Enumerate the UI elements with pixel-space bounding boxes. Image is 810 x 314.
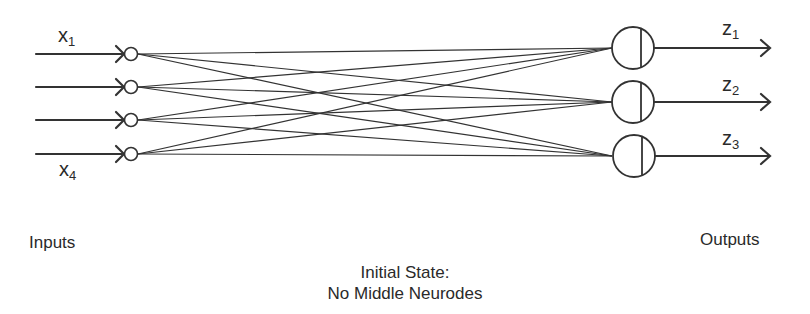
connection-lines	[138, 48, 612, 156]
input-arrow-1	[36, 46, 124, 62]
outputs-label: Outputs	[700, 230, 760, 250]
input-node-3	[125, 114, 138, 127]
var-base: x	[59, 158, 69, 180]
var-sub: 1	[732, 27, 739, 42]
input-node-1	[125, 48, 138, 61]
output-arrow-1	[654, 40, 770, 56]
var-base: z	[722, 17, 732, 39]
output-label-z1: z1	[722, 17, 739, 42]
output-node-3	[613, 135, 655, 177]
input-node-2	[125, 81, 138, 94]
input-arrow-2	[36, 79, 124, 95]
diagram-caption: Initial State: No Middle Neurodes	[0, 262, 810, 304]
var-sub: 4	[69, 168, 76, 183]
var-base: z	[722, 127, 732, 149]
output-node-1	[612, 27, 654, 69]
caption-line-1: Initial State:	[0, 262, 810, 283]
input-nodes	[125, 48, 138, 161]
caption-line-2: No Middle Neurodes	[0, 283, 810, 304]
input-node-4	[125, 148, 138, 161]
var-sub: 2	[732, 83, 739, 98]
input-label-x4: x4	[59, 158, 76, 183]
output-arrow-2	[654, 94, 770, 110]
output-arrow-3	[655, 148, 770, 164]
input-arrow-3	[36, 112, 124, 128]
output-node-2	[612, 81, 654, 123]
output-arrows	[654, 40, 770, 164]
var-base: x	[58, 24, 68, 46]
var-base: z	[722, 73, 732, 95]
var-sub: 1	[68, 34, 75, 49]
input-arrows	[36, 46, 124, 162]
input-arrow-4	[36, 146, 124, 162]
output-label-z2: z2	[722, 73, 739, 98]
input-label-x1: x1	[58, 24, 75, 49]
output-label-z3: z3	[722, 127, 739, 152]
output-nodes	[612, 27, 655, 177]
inputs-label: Inputs	[29, 233, 75, 253]
var-sub: 3	[732, 137, 739, 152]
